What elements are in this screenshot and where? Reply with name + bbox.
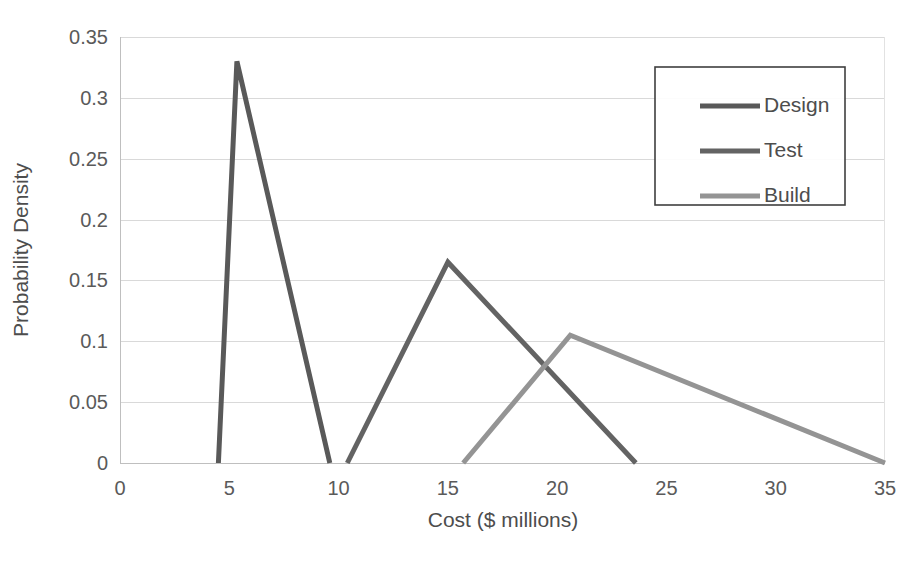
x-tick-label: 10 — [327, 477, 349, 499]
legend-label-test[interactable]: Test — [764, 138, 803, 161]
y-tick-label: 0.2 — [80, 209, 108, 231]
legend-label-design[interactable]: Design — [764, 93, 829, 116]
y-tick-labels: 00.050.10.150.20.250.30.35 — [69, 26, 108, 474]
y-tick-label: 0.3 — [80, 87, 108, 109]
x-tick-label: 15 — [437, 477, 459, 499]
x-tick-label: 35 — [874, 477, 896, 499]
x-axis-title: Cost ($ millions) — [428, 508, 579, 531]
chart-page: 05101520253035 00.050.10.150.20.250.30.3… — [0, 0, 914, 569]
y-tick-label: 0.1 — [80, 330, 108, 352]
y-tick-label: 0.15 — [69, 269, 108, 291]
x-tick-label: 0 — [114, 477, 125, 499]
x-tick-label: 5 — [224, 477, 235, 499]
x-tick-label: 30 — [765, 477, 787, 499]
x-tick-label: 20 — [546, 477, 568, 499]
series-line-build — [463, 335, 885, 463]
y-tick-label: 0.05 — [69, 391, 108, 413]
y-axis-title: Probability Density — [9, 163, 32, 337]
y-tick-label: 0.25 — [69, 148, 108, 170]
legend-label-build[interactable]: Build — [764, 183, 811, 206]
x-tick-labels: 05101520253035 — [114, 477, 896, 499]
legend-box — [655, 67, 845, 205]
chart-legend[interactable]: DesignTestBuild — [655, 67, 845, 206]
y-tick-label: 0 — [97, 452, 108, 474]
y-tick-label: 0.35 — [69, 26, 108, 48]
x-tick-label: 25 — [655, 477, 677, 499]
probability-density-chart: 05101520253035 00.050.10.150.20.250.30.3… — [0, 0, 914, 569]
